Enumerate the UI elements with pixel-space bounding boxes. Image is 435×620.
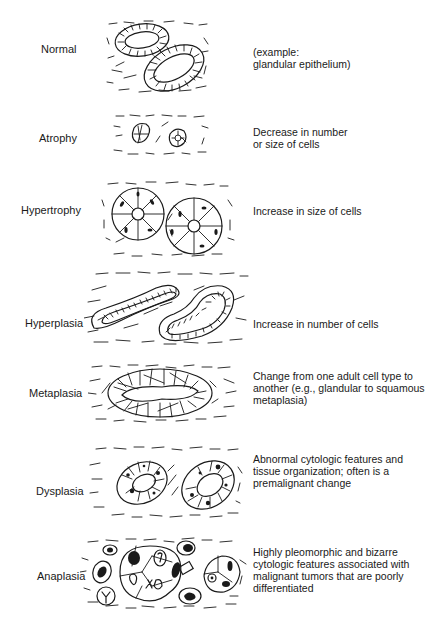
label-anaplasia: Anaplasia [37, 570, 85, 583]
illustration-dysplasia-glands [88, 445, 248, 520]
label-hypertrophy: Hypertrophy [21, 204, 81, 217]
row-dysplasia: Dysplasia Abnormal cytologic features an… [0, 445, 435, 520]
row-metaplasia: Metaplasia Change from one adult cell ty… [0, 345, 435, 445]
label-hyperplasia: Hyperplasia [25, 317, 83, 330]
row-hyperplasia: Hyperplasia Increase in number of cells [0, 270, 435, 345]
description-metaplasia: Change from one adult cell type to anoth… [253, 370, 425, 406]
illustration-atrophy-glands [112, 112, 212, 158]
row-hypertrophy: Hypertrophy Increase in size of cells [0, 170, 435, 270]
label-dysplasia: Dysplasia [36, 485, 84, 498]
illustration-hyperplasia-glands [84, 270, 252, 345]
description-atrophy: Decrease in number or size of cells [253, 126, 348, 150]
label-normal: Normal [41, 43, 76, 56]
row-atrophy: Atrophy Decrease in number or size of ce… [0, 100, 435, 160]
label-atrophy: Atrophy [39, 132, 77, 145]
description-anaplasia: Highly pleomorphic and bizarre cytologic… [253, 546, 409, 594]
illustration-hypertrophy-glands [100, 180, 240, 262]
row-anaplasia: Anaplasia Highly pleom [0, 520, 435, 620]
illustration-anaplasia-tissue [80, 536, 250, 612]
row-normal: Normal (example: glandular epithelium) [0, 0, 435, 100]
illustration-metaplasia-gland [88, 363, 240, 425]
label-metaplasia: Metaplasia [29, 387, 82, 400]
description-normal: (example: glandular epithelium) [253, 46, 350, 70]
description-hypertrophy: Increase in size of cells [253, 205, 362, 217]
illustration-normal-glands [104, 18, 214, 96]
description-hyperplasia: Increase in number of cells [253, 318, 378, 330]
description-dysplasia: Abnormal cytologic features and tissue o… [253, 453, 403, 489]
